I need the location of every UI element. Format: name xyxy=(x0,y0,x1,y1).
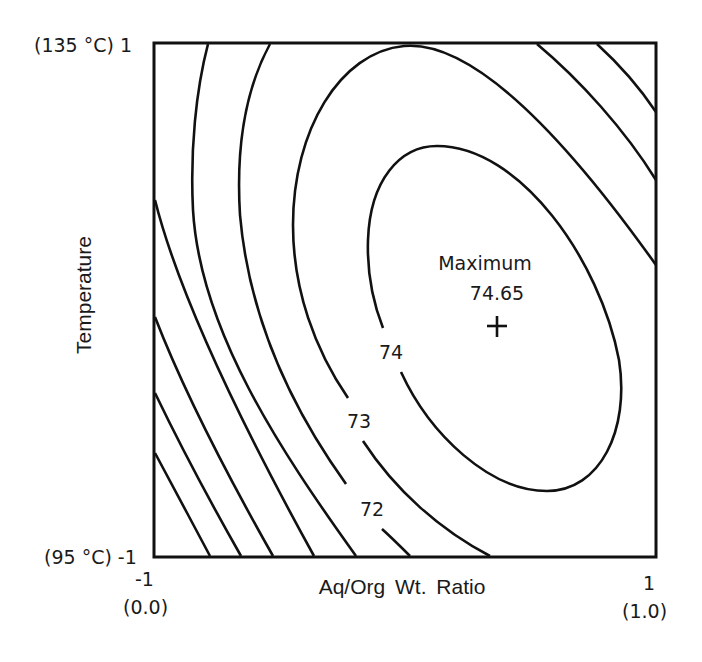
maximum-value: 74.65 xyxy=(470,282,524,304)
contour-line-72 xyxy=(382,529,410,556)
y-axis-title: Temperature xyxy=(72,236,96,354)
maximum-title: Maximum xyxy=(438,252,532,274)
contour-line xyxy=(537,44,656,180)
x-tick-right-actual: (1.0) xyxy=(622,600,667,622)
contour-line-72 xyxy=(239,44,346,484)
contour-line xyxy=(155,200,314,556)
maximum-marker-icon xyxy=(487,316,507,337)
contour-label-74: 74 xyxy=(379,341,403,363)
contour-line xyxy=(597,44,656,112)
contour-label-72: 72 xyxy=(360,498,384,520)
contour-lines xyxy=(155,44,656,556)
x-tick-left-actual: (0.0) xyxy=(123,596,168,618)
contour-label-73: 73 xyxy=(347,410,371,432)
contour-line xyxy=(155,453,210,556)
contour-line xyxy=(155,317,273,556)
x-tick-right-coded: 1 xyxy=(643,572,655,594)
y-tick-bottom: (95 °C) -1 xyxy=(44,546,137,568)
x-tick-left-coded: -1 xyxy=(135,568,154,590)
y-tick-top: (135 °C) 1 xyxy=(34,34,132,56)
x-axis-title: Aq/Org Wt. Ratio xyxy=(319,575,486,599)
contour-line-73 xyxy=(293,46,656,398)
contour-line-74 xyxy=(368,146,621,491)
